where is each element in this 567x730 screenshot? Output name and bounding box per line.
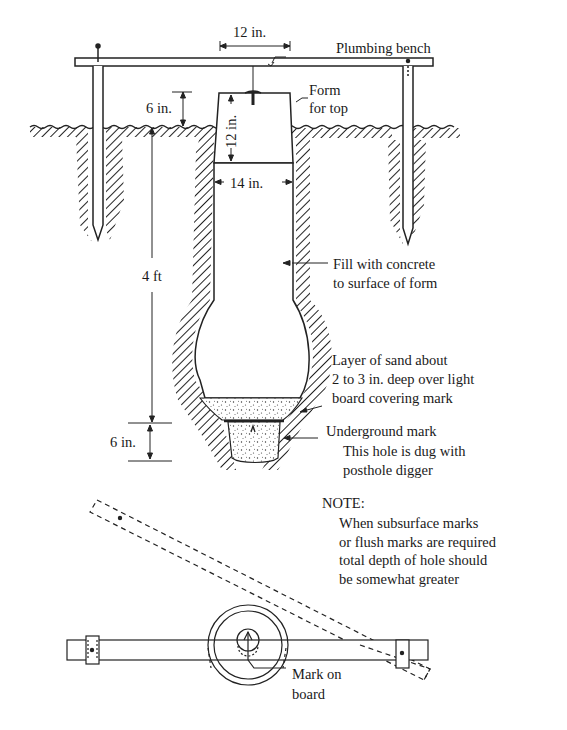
label-6in-top: 6 in. (146, 100, 172, 116)
monument-diagram (0, 0, 567, 730)
label-sand-3: board covering mark (332, 390, 453, 406)
label-6in-bottom: 6 in. (110, 434, 136, 450)
label-14in: 14 in. (230, 175, 263, 191)
label-underground-mark: Underground mark (326, 423, 436, 439)
label-form-for-top-1: Form (309, 82, 340, 98)
label-fill-1: Fill with concrete (333, 256, 435, 272)
label-12in-form: 12 in. (223, 115, 239, 148)
label-12in-top: 12 in. (233, 24, 266, 40)
label-form-for-top-2: for top (309, 100, 348, 116)
note-line-4: be somewhat greater (339, 570, 496, 589)
label-mark-on-board-1: Mark on (292, 666, 342, 682)
label-plumbing-bench: Plumbing bench (336, 40, 431, 56)
note-body: When subsurface marks or flush marks are… (339, 514, 496, 588)
label-mark-on-board-2: board (292, 686, 325, 702)
note-line-3: total depth of hole should (339, 551, 496, 570)
note-line-1: When subsurface marks (339, 514, 496, 533)
label-4ft: 4 ft (142, 268, 162, 284)
note-title: NOTE: (322, 495, 365, 511)
note-line-2: or flush marks are required (339, 533, 496, 552)
label-sand-1: Layer of sand about (332, 352, 448, 368)
label-posthole-1: This hole is dug with (343, 443, 465, 459)
label-fill-2: to surface of form (333, 275, 437, 291)
label-posthole-2: posthole digger (343, 462, 433, 478)
label-sand-2: 2 to 3 in. deep over light (332, 371, 474, 387)
